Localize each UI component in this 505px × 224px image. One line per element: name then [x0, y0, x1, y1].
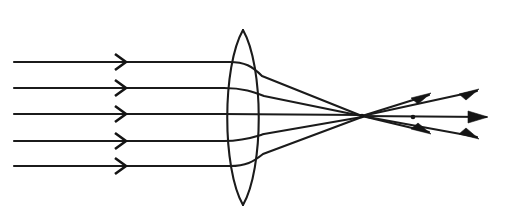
- refracted-ray-3-axis: [222, 114, 362, 115]
- diverging-ray-4-axis: [362, 116, 486, 117]
- focal-point-marker: [360, 114, 365, 119]
- second-crossing-marker: [411, 115, 416, 120]
- lens-ray-diagram: Converging lens ray diagram Five paralle…: [0, 0, 505, 224]
- diagram-background: [0, 0, 505, 224]
- ray-diagram-canvas: [0, 0, 505, 224]
